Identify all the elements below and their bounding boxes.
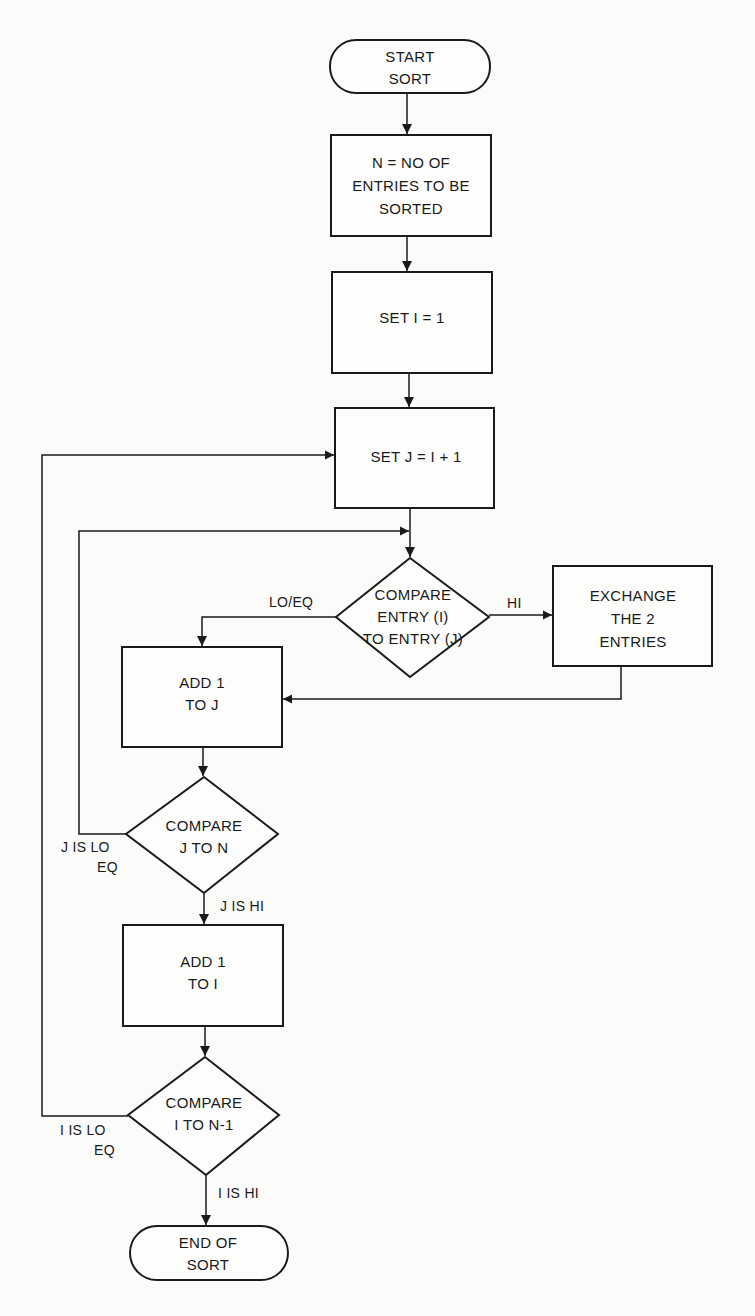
exchange-line-2: THE 2	[611, 610, 655, 627]
exchange-line-3: ENTRIES	[599, 633, 666, 650]
node-compare-j: COMPARE J TO N	[126, 777, 278, 893]
label-j-eq: EQ	[97, 859, 118, 875]
compare-entries-line-1: COMPARE	[375, 586, 452, 603]
node-exchange: EXCHANGE THE 2 ENTRIES	[553, 566, 712, 666]
set-n-line-2: ENTRIES TO BE	[352, 177, 470, 194]
node-compare-entries: COMPARE ENTRY (I) TO ENTRY (J)	[336, 558, 489, 677]
set-i-line-1: SET I = 1	[379, 309, 444, 326]
label-lo-eq: LO/EQ	[269, 594, 313, 610]
add-j-line-1: ADD 1	[179, 674, 225, 691]
add-i-line-2: TO I	[188, 975, 218, 992]
end-line-1: END OF	[179, 1234, 237, 1251]
edge-compare-loeq-to-addj	[202, 617, 336, 646]
label-i-is-lo: I IS LO	[60, 1122, 106, 1138]
set-n-line-3: SORTED	[379, 200, 443, 217]
node-add-i: ADD 1 TO I	[123, 925, 283, 1026]
start-line-1: START	[385, 48, 434, 65]
label-i-is-hi: I IS HI	[218, 1185, 259, 1201]
set-j-line-1: SET J = I + 1	[370, 448, 461, 465]
start-line-2: SORT	[389, 70, 432, 87]
label-hi: HI	[507, 595, 522, 611]
label-j-is-hi: J IS HI	[220, 898, 264, 914]
compare-j-line-1: COMPARE	[166, 817, 243, 834]
add-i-line-1: ADD 1	[180, 953, 226, 970]
compare-entries-line-3: TO ENTRY (J)	[363, 630, 463, 647]
node-end: END OF SORT	[130, 1226, 288, 1280]
end-line-2: SORT	[187, 1256, 230, 1273]
label-i-eq: EQ	[94, 1142, 115, 1158]
compare-i-line-1: COMPARE	[166, 1094, 243, 1111]
node-add-j: ADD 1 TO J	[122, 647, 282, 747]
set-n-line-1: N = NO OF	[372, 154, 450, 171]
flowchart: START SORT N = NO OF ENTRIES TO BE SORTE…	[0, 0, 755, 1316]
node-set-j: SET J = I + 1	[335, 408, 494, 508]
node-start: START SORT	[330, 40, 490, 93]
compare-j-line-2: J TO N	[180, 839, 229, 856]
compare-entries-line-2: ENTRY (I)	[377, 608, 448, 625]
edge-exchange-to-addj	[283, 666, 621, 699]
add-j-line-2: TO J	[185, 696, 218, 713]
compare-i-line-2: I TO N-1	[174, 1116, 233, 1133]
exchange-line-1: EXCHANGE	[590, 587, 677, 604]
node-set-n: N = NO OF ENTRIES TO BE SORTED	[331, 135, 491, 236]
node-compare-i: COMPARE I TO N-1	[128, 1057, 279, 1175]
label-j-is-lo: J IS LO	[61, 839, 110, 855]
node-set-i: SET I = 1	[332, 272, 492, 373]
